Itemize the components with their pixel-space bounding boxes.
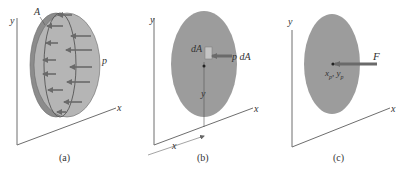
element-point <box>203 65 206 68</box>
caption-c: (c) <box>333 152 344 164</box>
axis-y-label-a: y <box>9 15 15 26</box>
axis-x-label-b: x <box>253 103 259 114</box>
axis-y-label-b: y <box>149 14 155 25</box>
area-label-a: A <box>33 6 41 17</box>
force-label-pdA: p dA <box>231 51 252 62</box>
axis-y-label-c: y <box>287 16 293 27</box>
axis-x-label-c: x <box>390 103 396 114</box>
hydrostatic-force-figure: y x A p (a) <box>0 0 407 177</box>
panel-c: y x F xp, yp (c) <box>287 14 396 164</box>
panel-b: y x dA p dA y x (b) <box>148 11 259 164</box>
area-element-dA <box>205 47 212 59</box>
x-distance-label: x <box>171 140 177 151</box>
yp-subscript: p <box>340 74 344 80</box>
center-of-pressure-point <box>331 62 334 65</box>
y-distance-label: y <box>200 88 206 99</box>
axis-x-label-a: x <box>116 102 122 113</box>
element-label-dA: dA <box>191 43 203 54</box>
caption-b: (b) <box>197 152 209 164</box>
pressure-label-p: p <box>101 55 107 66</box>
force-label-F: F <box>372 50 380 62</box>
panel-a: y x A p (a) <box>9 6 122 164</box>
caption-a: (a) <box>59 152 70 164</box>
